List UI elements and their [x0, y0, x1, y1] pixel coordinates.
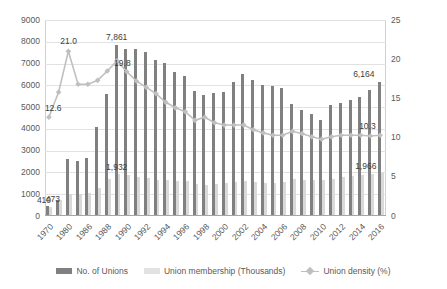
bar-dark-icon [56, 268, 72, 274]
bar-light-icon [144, 268, 160, 274]
y-axis-right-tick: 10 [391, 133, 421, 142]
plot-area: 47341012.621.07,86119.81,9326,16410.31,9… [45, 20, 386, 216]
data-label-density-1970: 12.6 [45, 104, 62, 113]
y-axis-left-tick: 8000 [0, 37, 40, 46]
y-axis-right-tick: 15 [391, 94, 421, 103]
chart-legend: No. of UnionsUnion membership (Thousands… [0, 266, 447, 276]
data-labels-layer: 47341012.621.07,86119.81,9326,16410.31,9… [45, 20, 386, 216]
data-label-unions-2016: 6,164 [353, 70, 374, 79]
legend-label: No. of Unions [76, 266, 128, 276]
legend-item-2[interactable]: Union membership (Thousands) [144, 266, 285, 276]
y-axis-right-tick: 25 [391, 16, 421, 25]
data-label-members-1989: 1,932 [106, 163, 127, 172]
y-axis-left-tick: 0 [0, 212, 40, 221]
y-axis-left-tick: 4000 [0, 124, 40, 133]
legend-label: Union density (%) [323, 266, 390, 276]
data-label-members-1970: 410 [37, 196, 51, 205]
chart-container: 0100020003000400050006000700080009000 05… [0, 0, 447, 289]
y-axis-right-tick: 20 [391, 55, 421, 64]
y-axis-right-tick: 5 [391, 172, 421, 181]
line-marker-icon [301, 268, 319, 275]
y-axis-left-tick: 2000 [0, 168, 40, 177]
y-axis-left-tick: 9000 [0, 16, 40, 25]
y-axis-left-tick: 6000 [0, 81, 40, 90]
data-label-density-1989: 19.8 [114, 59, 131, 68]
y-axis-left-tick: 5000 [0, 103, 40, 112]
y-axis-left-tick: 3000 [0, 146, 40, 155]
data-label-density-2016: 10.3 [359, 122, 376, 131]
data-label-unions-1989: 7,861 [106, 33, 127, 42]
legend-label: Union membership (Thousands) [164, 266, 285, 276]
y-axis-left-tick: 1000 [0, 190, 40, 199]
data-label-density-1980: 21.0 [60, 37, 77, 46]
data-label-members-2016: 1,966 [355, 162, 376, 171]
y-axis-left-tick: 7000 [0, 59, 40, 68]
y-axis-right-tick: 0 [391, 212, 421, 221]
legend-item-3[interactable]: Union density (%) [301, 266, 390, 276]
legend-item-1[interactable]: No. of Unions [56, 266, 128, 276]
